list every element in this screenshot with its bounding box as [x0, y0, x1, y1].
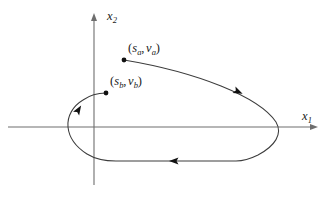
- point-a-label: (sa, va): [128, 42, 160, 55]
- point-a-label-comma: ,: [141, 41, 145, 55]
- point-a-label-close: ): [156, 41, 160, 55]
- point-b-label: (sb, vb): [110, 75, 142, 88]
- point-b-label-s-subscript: b: [119, 80, 123, 90]
- axes-group: [8, 13, 318, 185]
- x1-axis-label-subscript: 1: [308, 115, 312, 125]
- x1-axis-label: x1: [302, 110, 312, 123]
- x2-axis-arrowhead: [91, 13, 97, 21]
- point-b-label-v-subscript: b: [134, 80, 138, 90]
- trajectory-curve: [68, 60, 279, 161]
- point-a-label-v-subscript: a: [152, 47, 156, 57]
- x2-axis-label-subscript: 2: [113, 15, 117, 25]
- figure-canvas: x2 x1 (sa, va) (sb, vb): [0, 0, 331, 201]
- point-marker-b: [104, 91, 109, 96]
- x2-axis-label-base: x: [107, 9, 113, 23]
- point-b-label-comma: ,: [123, 74, 127, 88]
- point-b-label-v: v: [128, 74, 134, 88]
- point-b-label-close: ): [138, 74, 142, 88]
- point-marker-a: [122, 58, 127, 63]
- direction-arrowhead-left: [73, 104, 84, 116]
- x2-axis-label: x2: [107, 10, 117, 23]
- point-a-label-v: v: [146, 41, 152, 55]
- trajectory-plot-svg: [0, 0, 331, 201]
- point-a-label-s-subscript: a: [137, 47, 141, 57]
- x1-axis-label-base: x: [302, 109, 308, 123]
- trajectory-group: [68, 60, 279, 165]
